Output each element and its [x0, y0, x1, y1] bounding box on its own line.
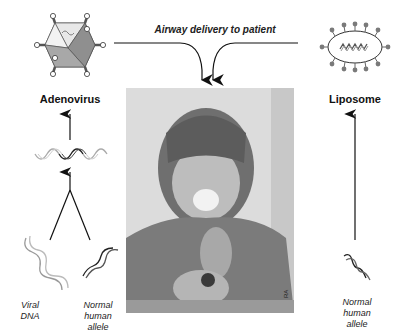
allele-label-line-3: allele [76, 322, 120, 333]
normal-human-allele-label-left: Normal human allele [76, 300, 120, 333]
liposome-label: Liposome [320, 93, 390, 105]
allele-right-line-3: allele [334, 319, 380, 330]
allele-label-line-2: human [76, 311, 120, 322]
normal-human-allele-label-right: Normal human allele [334, 297, 380, 330]
child-inhaler-illustration [126, 88, 294, 313]
human-allele-icon [83, 248, 118, 278]
viral-dna-label-line-2: DNA [10, 311, 50, 322]
liposome-icon [320, 22, 391, 73]
delivery-arrows [114, 43, 298, 80]
left-arrows [50, 114, 90, 240]
viral-dna-label-line-1: Viral [10, 300, 50, 311]
adenovirus-icon [34, 13, 105, 76]
viral-dna-icon [25, 236, 68, 290]
adenovirus-label: Adenovirus [30, 93, 110, 105]
viral-dna-label: Viral DNA [10, 300, 50, 322]
allele-right-line-2: human [334, 308, 380, 319]
delivery-label: Airway delivery to patient [150, 24, 280, 35]
allele-right-line-1: Normal [334, 297, 380, 308]
recombinant-dna-icon [35, 149, 107, 159]
allele-label-line-1: Normal [76, 300, 120, 311]
human-allele-icon-right [344, 255, 370, 280]
photo-credit: RA [283, 290, 289, 298]
patient-photo [126, 88, 294, 313]
